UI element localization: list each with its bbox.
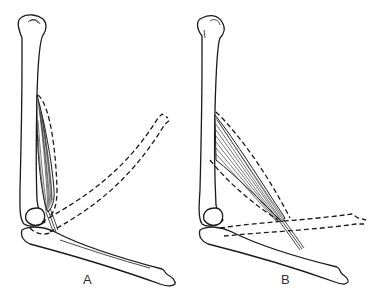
panel-label-a: A [83, 272, 92, 287]
panel-b-drawing [190, 0, 383, 306]
elbow-diagram: A [0, 0, 383, 306]
elbow-joint-b [204, 208, 223, 225]
humerus-b [198, 16, 225, 226]
panel-label-b: B [281, 272, 290, 287]
panel-b: B [190, 0, 383, 306]
panel-a: A [0, 0, 190, 306]
panel-a-drawing [0, 0, 190, 306]
forearm-flexed-a [42, 114, 168, 222]
elbow-joint-a [26, 208, 45, 225]
muscle-fibers-b [216, 118, 284, 222]
forearm-a [21, 227, 175, 286]
forearm-b [199, 227, 348, 284]
